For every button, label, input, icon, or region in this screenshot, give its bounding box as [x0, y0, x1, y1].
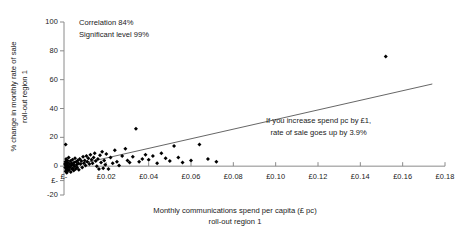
annotation-slope: If you increase spend pc by £1, rate of … — [266, 115, 371, 138]
plot-area — [0, 0, 461, 240]
x-tick-label: £- — [44, 172, 84, 181]
y-tick-label: 60 — [22, 75, 58, 84]
x-tick-label: £0.18 — [425, 172, 461, 181]
y-axis-title-line1: % change in monthly rate of sale — [9, 27, 20, 167]
annotation-correlation-line1: Correlation 84% — [79, 17, 149, 29]
y-tick-label: 20 — [22, 132, 58, 141]
y-tick-label: 0 — [22, 161, 58, 170]
x-axis-title: Monthly communications spend per capita … — [100, 206, 370, 227]
y-tick-label: 40 — [22, 104, 58, 113]
y-tick-label: 100 — [22, 17, 58, 26]
annotation-slope-line1: If you increase spend pc by £1, — [266, 115, 371, 127]
x-tick-label: £0.14 — [340, 172, 380, 181]
scatter-chart: % change in monthly rate of sale roll-ou… — [0, 0, 461, 240]
x-tick-label: £0.16 — [383, 172, 423, 181]
x-tick-label: £0.08 — [213, 172, 253, 181]
annotation-correlation: Correlation 84% Significant level 99% — [79, 17, 149, 40]
x-axis-title-line2: roll-out region 1 — [100, 217, 370, 228]
x-tick-label: £0.06 — [171, 172, 211, 181]
x-tick-label: £0.04 — [129, 172, 169, 181]
x-tick-label: £0.12 — [298, 172, 338, 181]
x-axis-title-line1: Monthly communications spend per capita … — [100, 206, 370, 217]
annotation-correlation-line2: Significant level 99% — [79, 29, 149, 41]
x-tick-label: £0.02 — [86, 172, 126, 181]
y-tick-label: 80 — [22, 46, 58, 55]
x-tick-label: £0.10 — [256, 172, 296, 181]
y-tick-label: -20 — [22, 190, 58, 199]
annotation-slope-line2: rate of sale goes up by 3.9% — [266, 127, 371, 139]
